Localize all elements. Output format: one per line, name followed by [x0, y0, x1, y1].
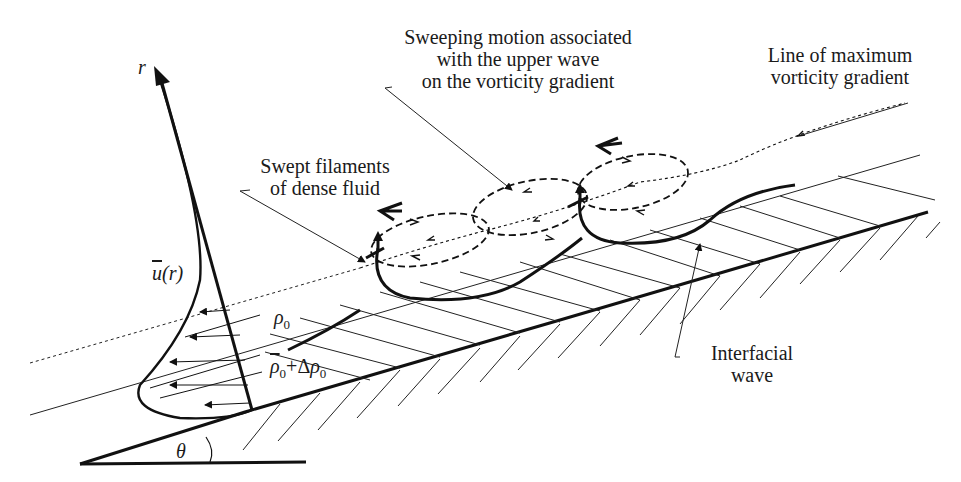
interfacial-wave-label: Interfacial wave: [702, 342, 802, 386]
rho-symbol-2: ρ: [270, 355, 280, 377]
rho0-label: ρ0: [274, 306, 290, 331]
rho0-plus-delta-label: ρ0+Δρ0: [270, 355, 326, 380]
sweeping-motion-line-1: Sweeping motion associated: [388, 26, 648, 48]
rho-symbol-3: ρ: [310, 355, 320, 377]
swept-filaments-line-1: Swept filaments: [250, 155, 400, 177]
r-axis-label: r: [138, 56, 146, 78]
sweeping-motion-label: Sweeping motion associated with the uppe…: [388, 26, 648, 92]
rho-symbol: ρ: [274, 306, 284, 328]
sweeping-motion-line-2: with the upper wave: [388, 48, 648, 70]
sweeping-motion-line-3: on the vorticity gradient: [388, 70, 648, 92]
line-max-vorticity-label: Line of maximum vorticity gradient: [750, 44, 930, 88]
interfacial-wave-line-1: Interfacial: [702, 342, 802, 364]
sweep-direction-arrows: [380, 138, 622, 220]
u-arg: (r): [162, 262, 183, 284]
rho-subscript-2: 0: [280, 366, 287, 381]
line-max-vorticity-line-2: vorticity gradient: [750, 66, 930, 88]
rho-subscript: 0: [284, 317, 291, 332]
swept-filaments-label: Swept filaments of dense fluid: [250, 155, 400, 199]
theta-label: θ: [176, 440, 186, 462]
interfacial-wave-line-2: wave: [702, 364, 802, 386]
plus-delta: +Δ: [286, 355, 310, 377]
dense-layer-hatching: [265, 176, 935, 380]
line-max-vorticity-line-1: Line of maximum: [750, 44, 930, 66]
rho-subscript-3: 0: [320, 366, 327, 381]
swept-filaments-line-2: of dense fluid: [250, 177, 400, 199]
u-bar-symbol: u: [152, 262, 162, 284]
u-bar-r-label: u(r): [152, 262, 183, 284]
